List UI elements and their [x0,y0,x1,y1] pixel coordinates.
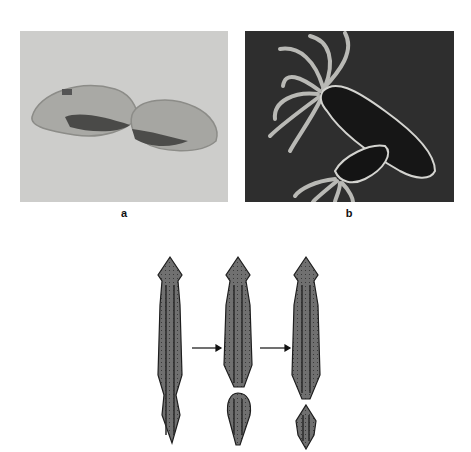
arrow-icon [260,345,290,351]
planarian-regeneration-diagram [140,245,340,450]
planarian-regenerated-stage-3 [292,257,320,449]
micrograph-hydra [245,31,454,202]
micrograph-paramecium [20,31,228,202]
panel-label-b: b [339,207,359,219]
panel-label-a: a [114,207,134,219]
arrow-icon [192,345,221,351]
planarian-whole [158,257,182,443]
planarian-fragment-stage-2 [224,257,252,445]
